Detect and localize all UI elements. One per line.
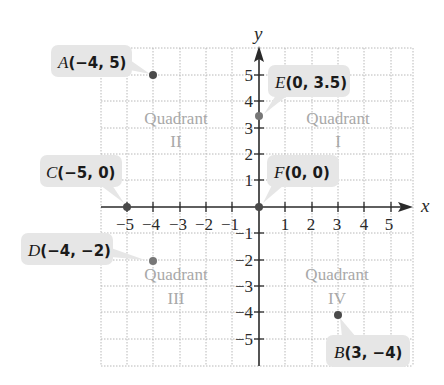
x-tick-label: 5	[385, 215, 394, 234]
y-tick-label: 4	[245, 92, 254, 111]
quadrant-2-numeral: II	[170, 132, 182, 151]
y-tick-label: −5	[235, 330, 253, 349]
x-tick-label: −5	[116, 215, 134, 234]
pointer-f	[263, 185, 284, 203]
x-tick-label: 3	[333, 215, 342, 234]
point-d	[149, 257, 157, 265]
point-a	[149, 71, 157, 79]
pointer-d	[111, 248, 145, 260]
y-axis-label: y	[252, 23, 263, 44]
point-c	[123, 203, 131, 211]
y-tick-label: 5	[245, 66, 254, 85]
y-tick-label: −2	[235, 251, 253, 270]
quadrant-1-word: Quadrant	[306, 109, 370, 128]
y-tick-label: 3	[245, 119, 254, 138]
y-tick-label: −3	[235, 277, 253, 296]
label-b: B(3, −4)	[334, 343, 402, 362]
pointer-c	[100, 185, 124, 203]
point-b	[334, 311, 342, 319]
label-a: A(−4, 5)	[57, 53, 126, 72]
x-tick-label: −2	[195, 215, 213, 234]
quadrant-2-word: Quadrant	[144, 109, 208, 128]
label-bubbles	[21, 45, 410, 367]
x-tick-label: 1	[281, 215, 290, 234]
pointer-b	[340, 318, 356, 337]
label-e: E(0, 3.5)	[274, 73, 347, 92]
point-e	[255, 112, 263, 120]
quadrant-3-word: Quadrant	[144, 265, 208, 284]
x-tick-labels: −5 −4 −3 −2 −1 1 2 3 4 5	[116, 215, 393, 234]
x-tick-label: −3	[169, 215, 187, 234]
x-tick-label: 2	[307, 215, 316, 234]
x-tick-label: −4	[142, 215, 161, 234]
quadrant-4-numeral: IV	[328, 289, 347, 308]
label-c: C(−5, 0)	[46, 163, 115, 182]
label-f: F(0, 0)	[273, 163, 330, 182]
x-axis-label: x	[420, 195, 430, 216]
y-tick-label: −1	[235, 224, 253, 243]
y-tick-label: −4	[235, 303, 254, 322]
x-tick-label: 4	[360, 215, 369, 234]
pointer-e	[264, 95, 288, 114]
coordinate-plane: Quadrant II Quadrant I Quadrant III Quad…	[0, 0, 444, 385]
quadrant-1-numeral: I	[335, 132, 341, 151]
point-f	[255, 203, 263, 211]
quadrant-4-word: Quadrant	[305, 265, 369, 284]
label-d: D(−4, −2)	[27, 241, 111, 260]
y-tick-label: 2	[245, 145, 254, 164]
y-tick-label: 1	[245, 171, 254, 190]
pointer-a	[130, 60, 150, 74]
quadrant-3-numeral: III	[168, 289, 185, 308]
